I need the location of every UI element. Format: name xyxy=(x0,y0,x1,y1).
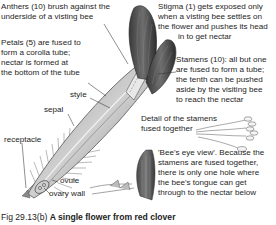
label-bees-eye-view: 'Bee's eye view'. Because the stamens ar… xyxy=(158,148,264,198)
label-stamens: Stamens (10): all but one are fused to f… xyxy=(176,55,266,105)
label-ovary-wall: ovary wall xyxy=(49,189,85,199)
label-detail-stamens: Detail of the stamens fused together xyxy=(141,114,217,134)
label-stigma: Stigma (1) gets exposed only when a vist… xyxy=(158,2,268,42)
label-petals: Petals (5) are fused to form a corolla t… xyxy=(1,38,81,78)
figure-number: Fig 29.13(b) xyxy=(1,212,50,222)
figure-caption: Fig 29.13(b) A single flower from red cl… xyxy=(1,212,176,222)
label-ovule: ovule xyxy=(60,176,79,186)
label-anthers: Anthers (10) brush against the underside… xyxy=(1,2,110,22)
figure-title: A single flower from red clover xyxy=(50,212,176,222)
bees-eye-view-drawing xyxy=(90,150,155,200)
label-style: style xyxy=(70,90,87,100)
label-receptacle: receptacle xyxy=(4,135,41,145)
label-sepal: sepal xyxy=(44,105,63,115)
